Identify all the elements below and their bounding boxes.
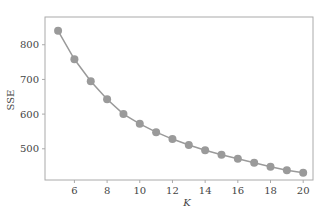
x-tick-label: 6 — [71, 185, 77, 196]
x-tick-label: 20 — [297, 185, 310, 196]
data-point — [185, 141, 193, 149]
y-axis-label: SSE — [5, 90, 16, 111]
data-point — [283, 166, 291, 174]
plot-frame — [45, 17, 313, 180]
data-point — [136, 120, 144, 128]
data-point — [234, 155, 242, 163]
x-tick-label: 14 — [199, 185, 212, 196]
x-axis-label: K — [182, 197, 191, 208]
y-tick-label: 500 — [20, 143, 39, 154]
x-tick-label: 8 — [104, 185, 110, 196]
x-tick-label: 16 — [231, 185, 244, 196]
data-point — [152, 128, 160, 136]
sse-line — [58, 31, 303, 173]
y-axis-ticks: 500600700800 — [20, 39, 45, 154]
data-point — [201, 146, 209, 154]
data-point — [119, 110, 127, 118]
x-axis-ticks: 68101214161820 — [71, 180, 309, 196]
x-tick-label: 12 — [166, 185, 179, 196]
elbow-chart: 500600700800 68101214161820 K SSE — [0, 0, 327, 218]
x-tick-label: 18 — [264, 185, 277, 196]
data-point — [299, 169, 307, 177]
data-point — [70, 55, 78, 63]
data-point — [217, 151, 225, 159]
x-tick-label: 10 — [133, 185, 146, 196]
y-tick-label: 600 — [20, 109, 39, 120]
sse-markers — [54, 27, 307, 177]
data-point — [103, 95, 111, 103]
y-tick-label: 700 — [20, 74, 39, 85]
data-point — [87, 77, 95, 85]
data-point — [267, 163, 275, 171]
y-tick-label: 800 — [20, 39, 39, 50]
data-point — [168, 135, 176, 143]
data-point — [54, 27, 62, 35]
data-point — [250, 159, 258, 167]
